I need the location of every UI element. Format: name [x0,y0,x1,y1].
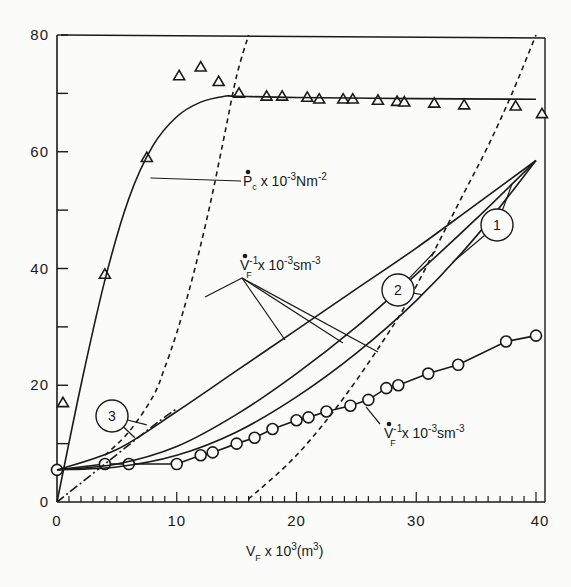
vf-lower-label: V-1F x 10-3sm-3 [384,422,465,448]
y-tick-label: 40 [30,260,49,277]
triangle-marker [99,269,110,278]
triangle-marker [277,91,288,100]
x-axis-title: VF x 103(m3) [246,541,323,563]
triangle-marker [174,70,185,79]
triangle-marker [302,92,313,101]
circle-marker [171,459,182,470]
circle-marker [393,380,404,391]
chart-figure: 020406080010203040VF x 103(m3) Pc x 10-3… [0,0,571,587]
curve-label-leader [452,235,485,262]
circle-marker [231,438,242,449]
triangle-marker [536,108,547,117]
y-tick-label: 60 [30,143,49,160]
x-tick-label: 10 [167,512,186,529]
dot-accent-icon [387,422,392,427]
triangle-marker [459,100,470,109]
pc-label-text: Pc x 10-3Nm-2 [243,171,327,192]
circle-marker [363,394,374,405]
x-tick-label: 40 [531,512,550,529]
vf-lower-leader-line [366,407,380,424]
curve-label-number: 2 [394,282,402,298]
x-tick-label: 30 [407,512,426,529]
triangle-marker [213,76,224,85]
circle-marker [381,383,392,394]
curve-label-3: 3 [96,400,147,438]
triangle-marker [372,95,383,104]
curve-label-leader [409,251,435,278]
circle-marker [531,330,542,341]
vf-upper-leader-4 [242,278,378,352]
circle-marker [207,447,218,458]
dot-accent-icon [243,254,248,259]
y-tick-label: 0 [40,493,49,510]
circle-marker [501,336,512,347]
axes: 020406080010203040VF x 103(m3) [30,26,549,563]
vf-upper-label-text: V-1F x 10-3sm-3 [240,255,321,280]
circle-marker [249,432,260,443]
curve-label-2: 2 [382,251,435,306]
curve-label-number: 1 [493,217,501,233]
circle-marker [303,412,314,423]
vf-upper-leader-2 [242,278,285,340]
curve-label-number: 3 [108,408,116,424]
annotation-layer: Pc x 10-3Nm-2V-1F x 10-3sm-3V-1F x 10-3s… [96,170,513,448]
triangle-marker [261,91,272,100]
circle-marker [423,368,434,379]
top-frame-line [61,35,545,38]
series-p-c-model-solid-line [57,96,536,502]
y-tick-label: 20 [30,376,49,393]
vf-upper-leader-1 [205,278,242,297]
circle-marker [267,424,278,435]
vf-upper-label: V-1F x 10-3sm-3 [240,254,321,280]
pc-leader-line [150,178,241,181]
series-v-f-1-measured-circles-line [57,336,536,470]
circle-marker [345,400,356,411]
circle-marker [291,415,302,426]
vf-lower-label-text: V-1F x 10-3sm-3 [384,423,465,448]
circle-marker [195,450,206,461]
x-tick-label: 0 [52,512,61,529]
curve-label-1: 1 [452,184,513,263]
series-dashed-curve-a-steep-line [105,35,249,455]
triangle-marker [510,101,521,110]
dot-accent-icon [246,170,251,175]
x-tick-label: 20 [287,512,306,529]
pc-label: Pc x 10-3Nm-2 [243,170,327,192]
y-tick-label: 80 [30,26,49,43]
triangle-marker [57,397,68,406]
circle-marker [453,359,464,370]
curve-label-leader [414,293,423,295]
triangle-marker [195,62,206,71]
